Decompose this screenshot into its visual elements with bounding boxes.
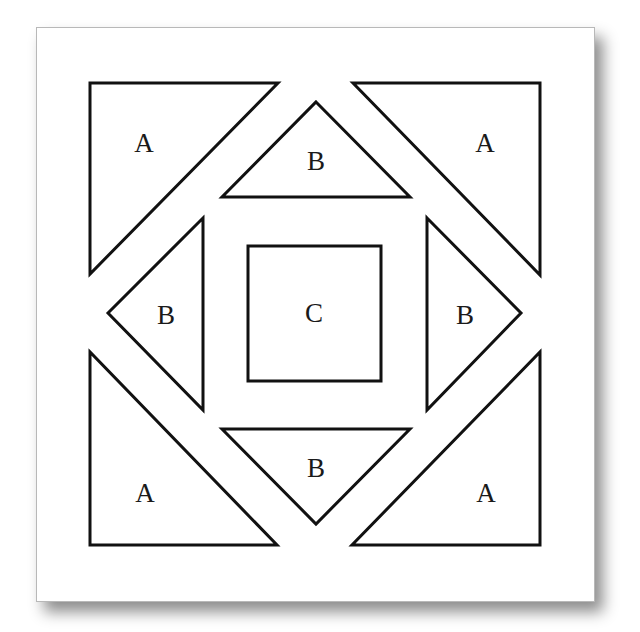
- piece-b-top: B: [222, 102, 410, 197]
- piece-label: B: [307, 453, 325, 483]
- piece-label: A: [476, 478, 496, 508]
- piece-label: B: [456, 300, 474, 330]
- piece-b-right: B: [427, 218, 521, 410]
- piece-label: A: [134, 128, 154, 158]
- piece-label: A: [135, 478, 155, 508]
- piece-b-bottom: B: [222, 429, 410, 524]
- piece-c-center: C: [248, 246, 381, 381]
- piece-label: B: [157, 300, 175, 330]
- piece-label: C: [305, 298, 323, 328]
- quilt-block-diagram: A A B B C B B A A: [0, 0, 640, 632]
- piece-label: A: [475, 128, 495, 158]
- piece-label: B: [307, 146, 325, 176]
- triangle-shape: [108, 218, 203, 410]
- piece-b-left: B: [108, 218, 203, 410]
